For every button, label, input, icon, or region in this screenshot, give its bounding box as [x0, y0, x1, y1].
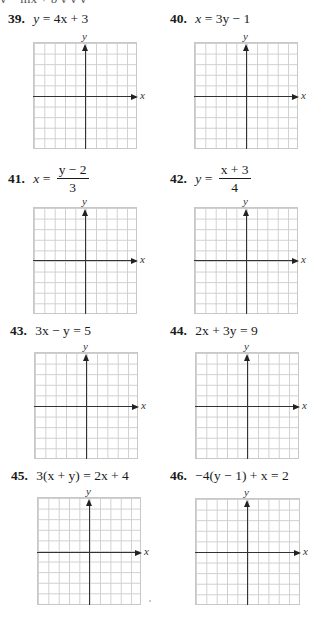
x-axis-label: x [144, 546, 149, 557]
x-axis-label: x [140, 90, 145, 101]
x-axis-label: x [302, 400, 307, 411]
problem-43-label: 43. 3x − y = 5 [10, 324, 91, 338]
problem-number: 46. [170, 468, 187, 483]
x-axis [37, 552, 137, 553]
problem-40-label: 40. x = 3y − 1 [170, 12, 250, 26]
x-axis [33, 96, 133, 97]
y-axis-label: y [82, 196, 87, 207]
y-axis [86, 358, 87, 459]
equation: 3x − y = 5 [35, 323, 91, 338]
y-axis-arrow-icon [86, 499, 92, 506]
y-axis-arrow-icon [82, 209, 88, 216]
x-axis-arrow-icon [292, 94, 299, 100]
x-axis-arrow-icon [131, 94, 138, 100]
x-axis-label: x [303, 546, 308, 557]
denominator: 3 [57, 179, 89, 195]
x-axis-label: x [301, 254, 306, 265]
y-axis-arrow-icon [82, 44, 88, 51]
equation: 3(x + y) = 2x + 4 [36, 468, 129, 483]
problem-number: 41. [8, 171, 25, 186]
numerator: x + 3 [219, 163, 251, 179]
y-axis-arrow-icon [243, 209, 249, 216]
y-axis-arrow-icon [244, 500, 250, 507]
x-axis [194, 96, 294, 97]
y-axis-label: y [244, 487, 249, 498]
problem-42-label: 42. y = x + 3 4 [170, 163, 251, 194]
x-axis [34, 406, 134, 407]
problem-number: 39. [8, 11, 25, 26]
x-axis-arrow-icon [135, 550, 142, 556]
x-axis-arrow-icon [132, 404, 139, 410]
x-axis-arrow-icon [293, 404, 300, 410]
y-axis-label: y [83, 341, 88, 352]
problem-39-label: 39. y = 4x + 3 [8, 12, 88, 26]
equation: y = 4x + 3 [33, 11, 88, 26]
x-axis [194, 260, 294, 261]
problem-46-label: 46. −4(y − 1) + x = 2 [170, 469, 289, 483]
denominator: 4 [219, 179, 251, 195]
y-axis-label: y [243, 196, 248, 207]
equation: x = 3y − 1 [195, 11, 250, 26]
equation: 2x + 3y = 9 [195, 323, 258, 338]
equation: y = [195, 171, 212, 186]
y-axis-arrow-icon [244, 354, 250, 361]
y-axis [246, 48, 247, 149]
problem-number: 45. [11, 468, 28, 483]
y-axis [89, 503, 90, 605]
y-axis-arrow-icon [83, 354, 89, 361]
y-axis [85, 213, 86, 314]
y-axis-label: y [243, 31, 248, 42]
x-axis-arrow-icon [294, 550, 301, 556]
y-axis [85, 48, 86, 149]
problem-45-label: 45. 3(x + y) = 2x + 4 [11, 469, 129, 483]
x-axis-label: x [140, 254, 145, 265]
y-axis-arrow-icon [243, 44, 249, 51]
problem-number: 43. [10, 323, 27, 338]
problem-44-label: 44. 2x + 3y = 9 [170, 324, 258, 338]
y-axis-label: y [82, 31, 87, 42]
problem-number: 44. [170, 323, 187, 338]
problem-number: 42. [170, 171, 187, 186]
x-axis-label: x [141, 400, 146, 411]
y-axis [247, 504, 248, 605]
x-axis-arrow-icon [131, 258, 138, 264]
scan-speck [149, 600, 151, 602]
y-axis [246, 213, 247, 314]
y-axis [247, 358, 248, 459]
fraction: x + 3 4 [219, 163, 251, 194]
numerator: y − 2 [57, 163, 89, 179]
equation: x = [33, 171, 50, 186]
equation: −4(y − 1) + x = 2 [195, 468, 288, 483]
cropped-instruction-text: y = mx + b y y y [0, 0, 325, 3]
x-axis [195, 552, 296, 553]
x-axis [33, 260, 133, 261]
x-axis-arrow-icon [292, 258, 299, 264]
y-axis-label: y [244, 341, 249, 352]
fraction: y − 2 3 [57, 163, 89, 194]
x-axis-label: x [301, 90, 306, 101]
x-axis [195, 406, 295, 407]
y-axis-label: y [86, 486, 91, 497]
problem-number: 40. [170, 11, 187, 26]
problem-41-label: 41. x = y − 2 3 [8, 163, 89, 194]
